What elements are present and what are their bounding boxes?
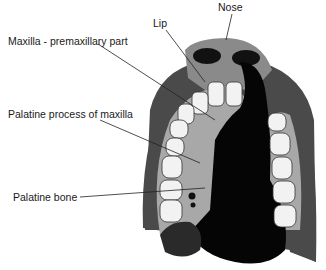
label-palatine-bone: Palatine bone (13, 192, 77, 203)
label-nose: Nose (218, 2, 243, 13)
label-palatine-process: Palatine process of maxilla (8, 109, 133, 120)
label-lip: Lip (153, 18, 167, 29)
label-maxilla: Maxilla - premaxillary part (8, 36, 128, 47)
